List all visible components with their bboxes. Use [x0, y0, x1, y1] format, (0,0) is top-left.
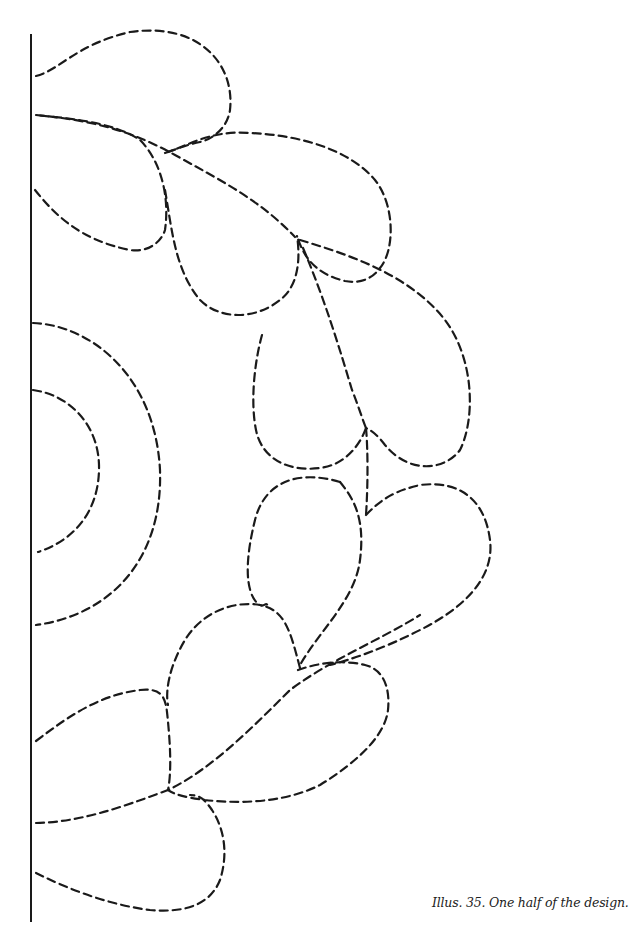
petal-lower-middle — [248, 477, 340, 606]
stem-line-lower — [300, 482, 361, 665]
petal-bottom-right — [168, 662, 388, 802]
petal-upper-left — [35, 115, 166, 250]
petal-middle-upper — [165, 190, 298, 315]
figure-caption: Illus. 35. One half of the design. — [432, 895, 629, 910]
petal-bottom — [36, 795, 224, 911]
petal-lower-right — [330, 484, 490, 665]
stem-line-middle — [303, 248, 366, 428]
sweep-line-lower — [36, 615, 420, 823]
inner-semicircle — [33, 390, 99, 552]
petal-lower-center — [167, 604, 300, 705]
petal-bottom-left — [36, 690, 170, 790]
stem-line-vertical — [366, 428, 368, 515]
petal-middle-left — [253, 335, 366, 469]
outer-semicircle — [33, 323, 160, 625]
